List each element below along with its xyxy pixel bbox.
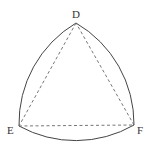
label-d: D	[72, 8, 80, 20]
reuleaux-diagram: D E F	[0, 0, 150, 149]
side-e-f	[19, 125, 134, 126]
label-f: F	[137, 124, 143, 136]
inner-triangle	[19, 23, 134, 126]
arc-e-f	[19, 125, 134, 141]
side-f-d	[76, 23, 134, 125]
label-e: E	[7, 124, 14, 136]
side-d-e	[19, 23, 76, 126]
reuleaux-arcs	[19, 23, 134, 141]
